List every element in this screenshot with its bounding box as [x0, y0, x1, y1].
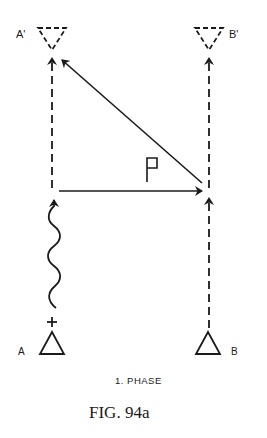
a-triangle-icon — [40, 332, 64, 354]
b-triangle-icon — [196, 332, 220, 354]
wavy-arrow — [48, 200, 60, 308]
b-label: B — [231, 346, 238, 357]
phase-diagram: A' B' P A B 1. PHA — [0, 0, 267, 438]
phase-label: 1. PHASE — [115, 375, 162, 386]
diagonal-arrow — [62, 60, 202, 183]
a-label: A — [18, 346, 25, 357]
b-prime-label: B' — [229, 28, 238, 40]
a-prime-triangle-icon — [38, 28, 66, 50]
force-p-glyph — [147, 158, 157, 182]
b-prime-triangle-icon — [195, 28, 223, 50]
plus-charge-icon — [47, 317, 57, 327]
a-prime-label: A' — [16, 28, 25, 40]
figure-caption: FIG. 94a — [89, 403, 150, 422]
